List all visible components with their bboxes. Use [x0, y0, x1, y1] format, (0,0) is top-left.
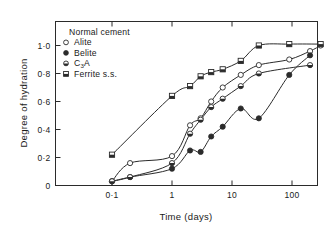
open-circle-marker [169, 154, 174, 159]
half-filled-square-marker [256, 43, 261, 48]
half-filled-circle-marker [307, 63, 312, 68]
y-tick-label: 1·0 [38, 41, 51, 51]
filled-circle-marker [64, 51, 69, 56]
filled-circle-marker [287, 72, 292, 77]
y-tick-label: 0 [46, 181, 51, 191]
open-circle-marker [287, 57, 292, 62]
half-filled-square-marker [209, 70, 214, 75]
legend-item-label: Alite [74, 37, 92, 47]
x-axis-title: Time (days) [159, 211, 212, 222]
filled-circle-marker [256, 116, 261, 121]
half-filled-circle-marker [64, 61, 69, 66]
half-filled-square-marker [220, 67, 225, 72]
open-circle-marker [187, 123, 192, 128]
y-tick-label: 0·6 [38, 97, 51, 107]
half-filled-circle-marker [187, 131, 192, 136]
y-tick-label: 0·4 [38, 125, 51, 135]
half-filled-circle-marker [220, 96, 225, 101]
open-circle-marker [209, 99, 214, 104]
open-circle-marker [220, 85, 225, 90]
legend-title: Normal cement [69, 27, 130, 37]
hydration-degree-chart: 00·20·40·60·81·0 0·1110100 Time (days) D… [0, 0, 336, 232]
half-filled-square-marker [318, 42, 323, 47]
half-filled-square-marker [109, 152, 114, 157]
half-filled-square-marker [64, 72, 69, 77]
y-axis-title: Degree of hydration [18, 58, 29, 147]
y-tick-label: 0·2 [38, 153, 51, 163]
half-filled-circle-marker [209, 105, 214, 110]
open-circle-marker [127, 161, 132, 166]
x-tick-label: 1 [170, 190, 175, 200]
x-tick-label: 0·1 [106, 190, 119, 200]
half-filled-circle-marker [109, 179, 114, 184]
open-circle-marker [256, 63, 261, 68]
half-filled-circle-marker [169, 161, 174, 166]
half-filled-square-marker [198, 74, 203, 79]
open-circle-marker [238, 72, 243, 77]
half-filled-square-marker [238, 58, 243, 63]
half-filled-square-marker [287, 42, 292, 47]
x-tick-label: 100 [285, 190, 300, 200]
open-circle-marker [64, 40, 69, 45]
y-tick-label: 0·8 [38, 69, 51, 79]
filled-circle-marker [198, 149, 203, 154]
half-filled-circle-marker [127, 175, 132, 180]
half-filled-circle-marker [256, 71, 261, 76]
filled-circle-marker [307, 53, 312, 58]
legend-item-label: Belite [74, 48, 97, 58]
filled-circle-marker [209, 134, 214, 139]
half-filled-circle-marker [198, 117, 203, 122]
half-filled-square-marker [187, 84, 192, 89]
half-filled-square-marker [169, 93, 174, 98]
legend-item-label: Ferrite s.s. [74, 69, 117, 79]
x-tick-label: 10 [227, 190, 237, 200]
half-filled-circle-marker [238, 84, 243, 89]
filled-circle-marker [187, 148, 192, 153]
filled-circle-marker [169, 166, 174, 171]
filled-circle-marker [238, 106, 243, 111]
filled-circle-marker [220, 124, 225, 129]
